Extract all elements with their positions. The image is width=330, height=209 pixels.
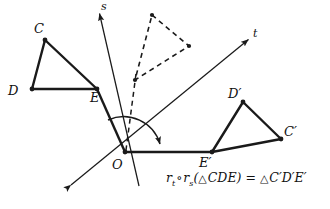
equation-caption: rt∘rs(△CDE)=△C′D′E′: [166, 172, 307, 188]
eqn-preimage: CDE: [208, 170, 237, 185]
triangle-glyph-1: △: [198, 172, 207, 185]
vertex-E-prime: [210, 150, 215, 155]
vertex-O: [123, 150, 128, 155]
triangle-CDE: [30, 38, 100, 92]
label-E: E: [90, 91, 100, 104]
vertex-D-prime: [241, 100, 246, 105]
segment-E-to-O: [97, 89, 125, 152]
vertex-D: [30, 87, 35, 92]
dashed-vertical-line: [126, 74, 136, 150]
triangle-glyph-2: △: [260, 172, 269, 185]
label-E-prime: E′: [199, 156, 211, 169]
eqn-image: C′D′E′: [269, 170, 306, 185]
label-C: C: [34, 22, 44, 35]
vertex-mid-3: [133, 78, 137, 82]
label-D: D: [8, 84, 18, 97]
geometry-figure: C D E O s t C′ D′ E′ rt∘rs(△CDE)=△C′D′E′: [0, 0, 330, 209]
label-line-s: s: [101, 1, 107, 12]
label-O: O: [112, 158, 123, 171]
vertex-C-prime: [279, 137, 284, 142]
line-t: [71, 40, 249, 186]
vertex-C: [43, 38, 48, 43]
vertex-mid-2: [187, 44, 191, 48]
eqn-equals: =: [241, 170, 259, 185]
triangle-CpDpEp: [210, 100, 284, 155]
label-D-prime: D′: [228, 87, 241, 100]
label-line-t: t: [253, 28, 257, 39]
label-C-prime: C′: [284, 125, 297, 138]
triangle-intermediate-dashed: [133, 13, 191, 82]
vertex-mid-1: [150, 13, 154, 17]
